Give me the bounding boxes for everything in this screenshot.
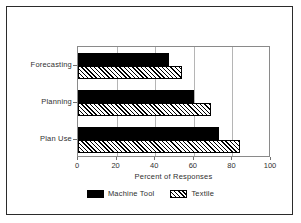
x-tick-mark — [77, 157, 78, 160]
y-tick-mark — [73, 65, 77, 66]
x-tick-label-20: 20 — [104, 161, 128, 170]
x-tick-label-80: 80 — [219, 161, 243, 170]
chart-legend: Machine ToolTextile — [0, 189, 301, 198]
bar-textile-plan-use — [78, 140, 240, 153]
bar-machine-tool-plan-use — [78, 127, 219, 140]
x-tick-mark — [193, 157, 194, 160]
y-tick-label-forecasting: Forecasting — [0, 60, 72, 69]
y-tick-mark — [73, 139, 77, 140]
x-tick-label-100: 100 — [258, 161, 282, 170]
y-tick-label-planning: Planning — [0, 97, 72, 106]
y-tick-label-plan-use: Plan Use — [0, 134, 72, 143]
x-tick-mark — [231, 157, 232, 160]
legend-swatch-machine-tool — [87, 190, 104, 198]
x-tick-mark — [154, 157, 155, 160]
legend-swatch-textile — [170, 190, 187, 198]
x-tick-mark — [270, 157, 271, 160]
bar-textile-forecasting — [78, 66, 182, 79]
legend-entry-textile: Textile — [170, 189, 214, 198]
bar-textile-planning — [78, 103, 211, 116]
x-tick-label-60: 60 — [181, 161, 205, 170]
x-tick-label-0: 0 — [65, 161, 89, 170]
bar-machine-tool-planning — [78, 90, 194, 103]
y-tick-mark — [73, 102, 77, 103]
bar-machine-tool-forecasting — [78, 53, 169, 66]
x-axis-title: Percent of Responses — [77, 172, 270, 181]
x-tick-label-40: 40 — [142, 161, 166, 170]
legend-label-machine-tool: Machine Tool — [108, 189, 154, 198]
x-tick-mark — [116, 157, 117, 160]
chart-figure: ForecastingPlanningPlan Use 020406080100… — [0, 0, 301, 223]
plot-area — [77, 46, 270, 157]
legend-entry-machine-tool: Machine Tool — [87, 189, 154, 198]
legend-label-textile: Textile — [191, 189, 214, 198]
